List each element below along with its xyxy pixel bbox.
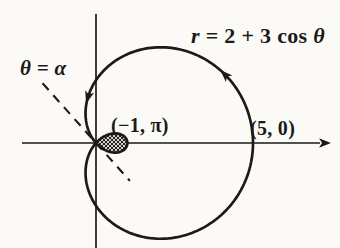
polar-limacon-figure: r = 2 + 3 cos θ θ = α (−1, π) (5, 0)	[0, 0, 340, 248]
equation-cos-function: cos	[277, 23, 313, 48]
equation-terms: = 2 + 3	[200, 23, 277, 48]
ray-angle-label: θ = α	[20, 57, 66, 79]
x-intercept-point-label: (5, 0)	[250, 118, 295, 139]
equation-r-variable: r	[191, 23, 200, 48]
x-axis-arrowhead-icon	[319, 138, 331, 148]
equation-label: r = 2 + 3 cos θ	[191, 24, 325, 47]
inner-loop-point-label: (−1, π)	[111, 115, 169, 136]
equation-theta-variable: θ	[313, 23, 325, 48]
